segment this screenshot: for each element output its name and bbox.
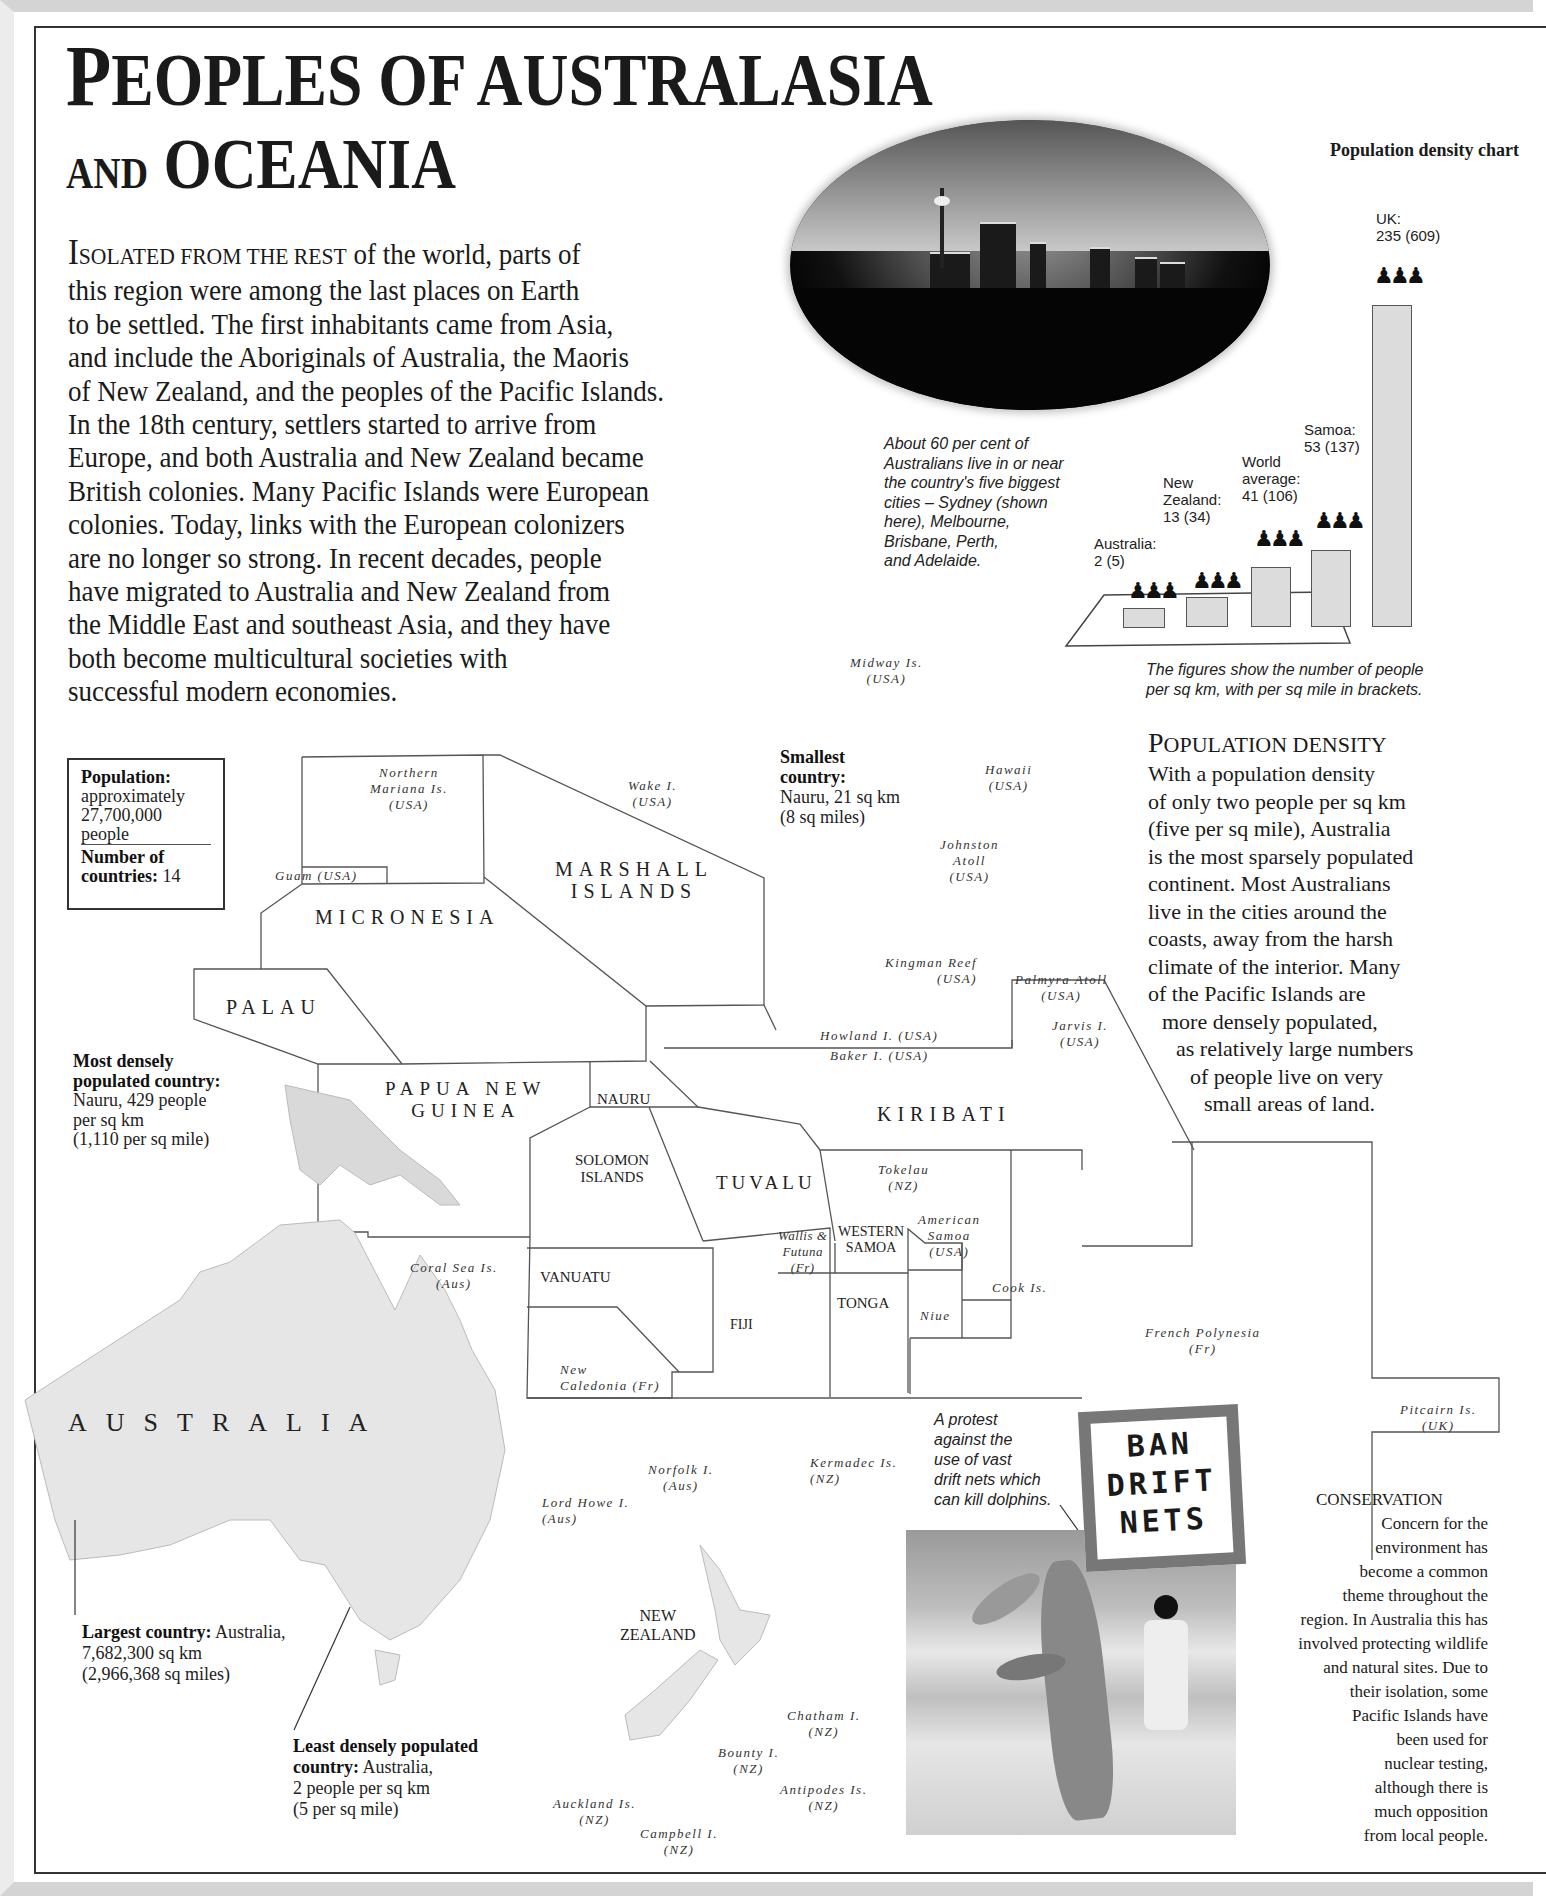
- map-label-western-samoa: WESTERN SAMOA: [838, 1224, 904, 1256]
- map-label-midway: Midway Is. (USA): [850, 655, 923, 687]
- map-label-jarvis: Jarvis I. (USA): [1052, 1018, 1108, 1050]
- map-label-wallis-futuna: Wallis & Futuna (Fr): [778, 1228, 827, 1276]
- map-label-new-caledonia: New Caledonia (Fr): [560, 1362, 660, 1394]
- map-label-johnston: Johnston Atoll (USA): [940, 837, 999, 885]
- chart-note: The figures show the number of people pe…: [1146, 660, 1424, 700]
- map-label-coral-sea: Coral Sea Is. (Aus): [410, 1260, 498, 1292]
- chart-label-australia: Australia: 2 (5): [1094, 535, 1157, 569]
- map-label-fiji: FIJI: [730, 1314, 753, 1336]
- map-label-vanuatu: VANUATU: [540, 1266, 611, 1288]
- map-label-palmyra: Palmyra Atoll (USA): [1015, 972, 1108, 1004]
- map-label-new-zealand: NEW ZEALAND: [620, 1606, 696, 1644]
- map-label-solomon-islands: SOLOMON ISLANDS: [575, 1152, 649, 1186]
- chart-bar-samoa: [1311, 550, 1351, 627]
- map-label-howland: Howland I. (USA): [820, 1028, 938, 1044]
- dolphin-prop: [1033, 1558, 1120, 1823]
- map-label-tuvalu: TUVALU: [716, 1172, 816, 1194]
- chart-label-world-average: World average: 41 (106): [1242, 453, 1300, 504]
- map-label-antipodes: Antipodes Is. (NZ): [780, 1782, 867, 1814]
- map-label-campbell: Campbell I. (NZ): [640, 1826, 718, 1858]
- population-density-text: With a population density of only two pe…: [1148, 760, 1413, 1118]
- chart-label-samoa: Samoa: 53 (137): [1304, 421, 1360, 455]
- map-label-pitcairn: Pitcairn Is. (UK): [1400, 1402, 1477, 1434]
- people-icon: ♟♟♟: [1374, 265, 1422, 287]
- chart-label-new-zealand: New Zealand: 13 (34): [1163, 474, 1221, 525]
- map-label-auckland-islands: Auckland Is. (NZ): [553, 1796, 636, 1828]
- people-icon: ♟♟♟: [1254, 528, 1302, 550]
- conservation-text: Concern for the environment has become a…: [1298, 1512, 1488, 1848]
- smallest-country-fact: Smallest country: Nauru, 21 sq km (8 sq …: [780, 747, 900, 827]
- ban-drift-nets-sign: BAN DRIFT NETS: [1078, 1404, 1246, 1572]
- chart-label-uk: UK: 235 (609): [1376, 210, 1440, 244]
- map-label-tokelau: Tokelau (NZ): [878, 1162, 929, 1194]
- chart-bar-australia: [1123, 608, 1165, 628]
- intro-paragraph: Isolated from the rest of the world, par…: [68, 236, 770, 708]
- map-label-northern-mariana: Northern Mariana Is. (USA): [370, 765, 448, 813]
- map-label-niue: Niue: [920, 1308, 951, 1324]
- population-fact-box: Population: approximately 27,700,000 peo…: [67, 758, 225, 910]
- map-label-baker: Baker I. (USA): [830, 1048, 929, 1064]
- least-dense-fact: Least densely populated country: Austral…: [293, 1736, 478, 1820]
- map-label-marshall-islands: MARSHALL ISLANDS: [555, 858, 713, 902]
- map-label-kiribati: KIRIBATI: [877, 1103, 1011, 1125]
- largest-country-fact: Largest country: Australia, 7,682,300 sq…: [82, 1622, 285, 1685]
- photo-caption: About 60 per cent of Australians live in…: [884, 434, 1064, 571]
- people-icon: ♟♟♟: [1192, 570, 1240, 592]
- map-label-hawaii: Hawaii (USA): [985, 762, 1032, 794]
- map-label-kingman-reef: Kingman Reef (USA): [885, 955, 977, 987]
- map-label-guam: Guam (USA): [275, 868, 358, 884]
- chart-bar-new-zealand: [1186, 597, 1228, 627]
- map-label-papua-new-guinea: PAPUA NEW GUINEA: [385, 1078, 547, 1122]
- sydney-skyline-photo: [790, 120, 1270, 410]
- map-label-palau: PALAU: [226, 996, 321, 1018]
- protest-caption: A protest against the use of vast drift …: [934, 1410, 1051, 1510]
- map-label-australia: AUSTRALIA: [68, 1412, 386, 1434]
- population-density-heading: POPULATION DENSITY: [1148, 728, 1387, 760]
- dolphin-prop: [965, 1565, 1047, 1634]
- map-label-bounty: Bounty I. (NZ): [718, 1745, 779, 1777]
- map-label-french-polynesia: French Polynesia (Fr): [1145, 1325, 1261, 1357]
- chart-title: Population density chart: [1330, 140, 1519, 161]
- page-title-line2: AND OCEANIA: [66, 126, 456, 212]
- chart-bar-uk: [1372, 305, 1412, 627]
- map-label-norfolk: Norfolk I. (Aus): [648, 1462, 714, 1494]
- map-label-cook-islands: Cook Is.: [992, 1280, 1047, 1296]
- conservation-heading: CONSERVATION: [1316, 1490, 1443, 1510]
- map-label-american-samoa: American Samoa (USA): [918, 1212, 981, 1260]
- people-icon: ♟♟♟: [1314, 510, 1362, 532]
- map-label-kermadec: Kermadec Is. (NZ): [810, 1455, 897, 1487]
- map-label-chatham: Chatham I. (NZ): [787, 1708, 861, 1740]
- map-label-micronesia: MICRONESIA: [315, 906, 499, 928]
- protester: [1144, 1620, 1188, 1730]
- chart-bar-world-average: [1251, 567, 1291, 627]
- protest-photo: [906, 1530, 1236, 1835]
- people-icon: ♟♟♟: [1128, 580, 1176, 602]
- map-label-lord-howe: Lord Howe I. (Aus): [542, 1495, 629, 1527]
- page-title-line1: PEOPLES OF AUSTRALASIA: [66, 38, 933, 118]
- map-label-nauru: NAURU: [597, 1088, 650, 1110]
- map-label-wake: Wake I. (USA): [628, 778, 677, 810]
- protester: [1154, 1595, 1178, 1619]
- most-dense-fact: Most densely populated country: Nauru, 4…: [73, 1052, 221, 1150]
- map-label-tonga: TONGA: [837, 1292, 889, 1314]
